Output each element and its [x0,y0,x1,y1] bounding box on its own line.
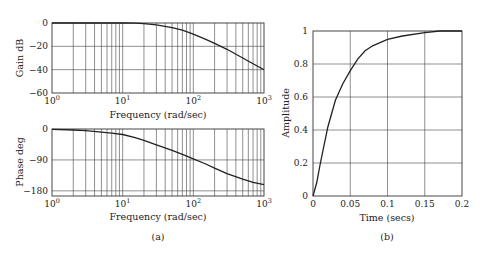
x-tick-label: 103 [256,197,272,209]
caption-a: (a) [151,231,164,242]
plot-frame [52,23,264,93]
y-tick-label: 0.6 [294,92,309,102]
x-tick-label: 101 [115,94,131,106]
x-tick-label: 103 [256,94,272,106]
x-tick-label: 0.05 [340,199,360,209]
x-tick-label: 102 [186,197,202,209]
gain-xlabel: Frequency (rad/sec) [109,109,206,120]
y-tick-label: 0 [42,18,48,28]
y-tick-label: 0.2 [294,158,308,168]
step-xlabel: Time (secs) [359,212,414,223]
x-tick-label: 101 [115,197,131,209]
y-tick-label: −180 [23,186,48,196]
gain-ylabel: Gain dB [14,39,25,78]
phase-xlabel: Frequency (rad/sec) [109,211,206,222]
figure: 0−20−40−60100101102103 0−90−180100101102… [0,0,483,259]
phase-ylabel: Phase deg [14,137,25,186]
step-ylabel: Amplitude [280,88,291,139]
x-tick-label: 0.15 [415,199,435,209]
y-tick-label: −90 [29,155,48,165]
y-tick-label: −20 [29,41,48,51]
y-tick-label: 0.8 [294,59,309,69]
y-tick-label: 0.4 [294,125,309,135]
x-tick-label: 102 [186,94,202,106]
caption-b: (b) [380,231,394,242]
y-tick-label: 1 [302,26,308,36]
phase-plot: 0−90−180100101102103 [23,124,272,209]
x-tick-label: 0.2 [455,199,469,209]
y-tick-label: −40 [29,65,48,75]
y-tick-label: 0 [302,191,308,201]
x-tick-label: 100 [44,197,60,209]
data-curve [52,129,264,184]
y-tick-label: 0 [42,124,48,134]
x-tick-label: 0.1 [380,199,394,209]
x-tick-label: 100 [44,94,60,106]
step-response-plot: 00.20.40.60.8100.050.10.150.2 [294,26,469,209]
gain-plot: 0−20−40−60100101102103 [29,18,272,106]
x-tick-label: 0 [310,199,316,209]
plot-frame [52,129,264,196]
